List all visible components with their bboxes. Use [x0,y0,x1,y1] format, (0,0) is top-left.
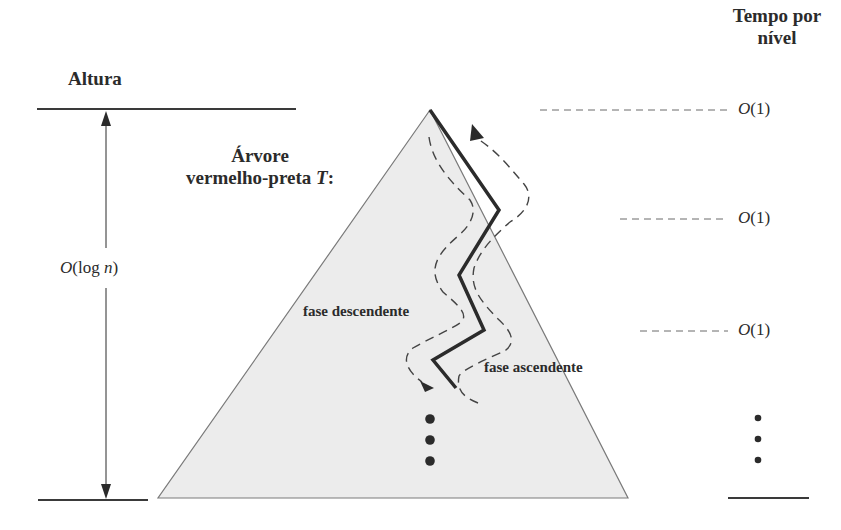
tree-title-line2: vermelho-preta T: [160,167,360,189]
tree-title: Árvore vermelho-preta T: [160,145,360,189]
tree-title-colon: : [328,167,334,188]
height-complexity-label: O(log n) [60,258,118,278]
descending-phase-label: fase descendente [303,303,409,320]
time-per-level-header: Tempo por nível [722,5,832,49]
vertical-ellipsis-icon-tree [425,414,435,466]
level-3-complexity: O(1) [738,320,770,340]
log-arg: (log [72,258,104,277]
level-1-complexity: O(1) [738,99,770,119]
height-header: Altura [68,68,122,90]
vertical-ellipsis-icon-right [755,415,762,464]
arrow-up-icon [101,111,111,126]
time-header-line1: Tempo por [722,5,832,27]
level-2-complexity: O(1) [738,208,770,228]
tree-variable: T [316,167,328,188]
arrow-ascending-icon [470,124,484,141]
big-o-symbol: O [738,99,750,118]
close-paren: ) [112,258,118,277]
big-o-symbol: O [60,258,72,277]
tree-title-text: vermelho-preta [186,167,316,188]
ascending-phase-label: fase ascendente [484,359,583,376]
diagram-canvas [0,0,841,530]
time-header-line2: nível [722,27,832,49]
arrow-down-icon [101,484,111,499]
tree-title-line1: Árvore [160,145,360,167]
red-black-tree-diagram: Altura O(log n) Tempo por nível O(1) O(1… [0,0,841,530]
constant-arg: (1) [750,99,770,118]
constant-arg: (1) [750,208,770,227]
big-o-symbol: O [738,320,750,339]
big-o-symbol: O [738,208,750,227]
constant-arg: (1) [750,320,770,339]
